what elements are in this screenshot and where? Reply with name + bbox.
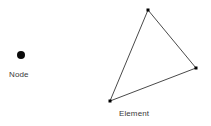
element-diagram-svg [0,0,211,126]
node-marker-icon [17,51,25,59]
element-triangle-outline [110,10,196,101]
element-vertex-marker-bottom-left [109,100,112,103]
node-label: Node [9,70,29,80]
element-vertex-marker-apex [147,9,150,12]
diagram-canvas: Node Element [0,0,211,126]
element-vertex-marker-right [195,67,198,70]
element-label: Element [119,109,149,119]
